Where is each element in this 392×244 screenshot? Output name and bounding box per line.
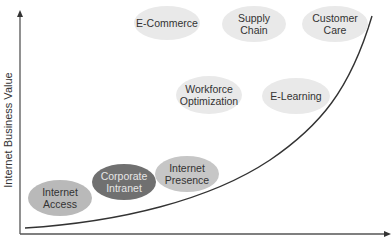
x-axis-arrow-icon bbox=[384, 231, 391, 237]
bubble-internet-presence: Internet Presence bbox=[155, 156, 219, 192]
bubble-internet-access: Internet Access bbox=[28, 180, 92, 216]
y-axis-arrow-icon bbox=[17, 10, 23, 17]
bubble-supply-chain: Supply Chain bbox=[222, 6, 286, 42]
bubble-e-commerce: E-Commerce bbox=[134, 6, 200, 40]
bubble-workforce-optimization: Workforce Optimization bbox=[176, 76, 242, 114]
internet-business-value-diagram: Internet Business Value Internet Access … bbox=[0, 0, 392, 244]
bubble-customer-care: Customer Care bbox=[302, 6, 368, 42]
bubble-e-learning: E-Learning bbox=[262, 78, 330, 114]
bubble-corporate-intranet: Corporate Intranet bbox=[92, 164, 156, 200]
